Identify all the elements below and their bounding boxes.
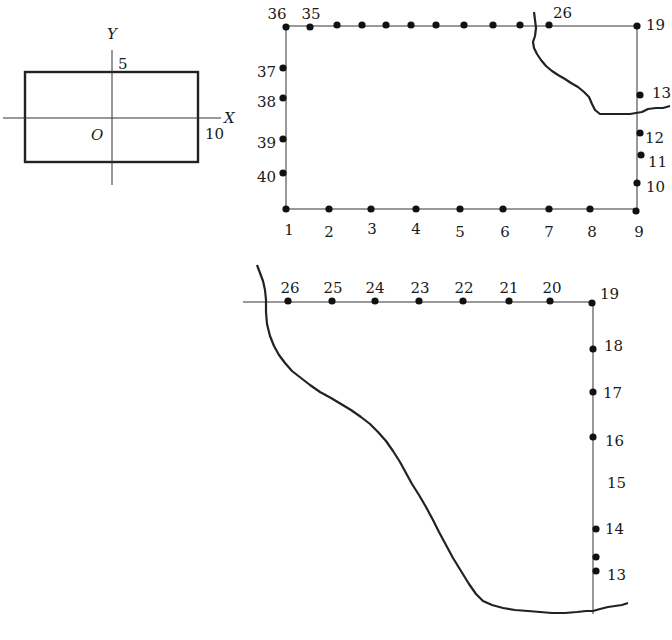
point-label-top-2: 2 (324, 223, 334, 241)
top-points: 123456789101112131926353637383940 (257, 4, 671, 241)
point-label-bottom-17: 17 (603, 384, 622, 402)
point-label-top-26: 26 (553, 4, 572, 22)
top-diagram: 123456789101112131926353637383940 (257, 4, 671, 241)
survey-point-bottom-14 (592, 525, 599, 532)
survey-point-top-36 (282, 23, 289, 30)
point-label-top-1: 1 (284, 221, 294, 239)
survey-point-bottom-26 (284, 297, 291, 304)
bottom-diagram: 1314151617181920212223242526 (243, 265, 628, 614)
point-label-top-36: 36 (267, 5, 286, 23)
point-label-top-12: 12 (645, 129, 664, 147)
point-label-top-6: 6 (500, 223, 510, 241)
survey-point-top-37 (279, 64, 286, 71)
survey-point-bottom-17 (589, 388, 596, 395)
point-label-bottom-25: 25 (323, 279, 342, 297)
point-label-bottom-16: 16 (605, 432, 624, 450)
survey-point-top-33 (358, 21, 365, 28)
survey-point-top-38 (279, 94, 286, 101)
survey-point-bottom-16 (589, 433, 596, 440)
survey-point-top-3 (367, 205, 374, 212)
point-label-top-35: 35 (301, 5, 320, 23)
point-label-top-11: 11 (648, 153, 667, 171)
survey-point-bottom-24 (371, 297, 378, 304)
point-label-bottom-15: 15 (607, 474, 626, 492)
survey-point-bottom-13 (592, 567, 599, 574)
survey-point-top-12 (636, 129, 643, 136)
point-label-top-39: 39 (257, 134, 276, 152)
point-label-top-13: 13 (652, 84, 671, 102)
survey-point-top-30 (432, 21, 439, 28)
point-label-top-9: 9 (634, 223, 644, 241)
survey-point-top-28 (489, 21, 496, 28)
survey-point-bottom-23 (415, 297, 422, 304)
survey-point-top-13 (636, 91, 643, 98)
survey-point-top-7 (545, 205, 552, 212)
point-label-top-3: 3 (367, 220, 377, 238)
survey-point-top-2 (325, 205, 332, 212)
point-label-top-4: 4 (411, 220, 421, 238)
survey-point-bottom-18 (589, 345, 596, 352)
point-label-top-10: 10 (646, 178, 665, 196)
survey-point-bottom-19 (588, 299, 595, 306)
survey-point-top-6 (499, 205, 506, 212)
survey-point-top-4 (412, 205, 419, 212)
survey-point-top-34 (333, 21, 340, 28)
point-label-bottom-13: 13 (607, 566, 626, 584)
survey-point-top-5 (456, 205, 463, 212)
survey-point-top-31 (407, 21, 414, 28)
point-label-top-38: 38 (257, 93, 276, 111)
survey-point-top-9 (632, 207, 639, 214)
point-label-bottom-19: 19 (600, 285, 619, 303)
survey-point-bottom-25 (328, 297, 335, 304)
point-label-bottom-22: 22 (454, 279, 473, 297)
x-axis-label: X (223, 109, 236, 127)
survey-diagram-canvas: X Y O 5 10 12345678910111213192635363738… (0, 0, 672, 640)
survey-point-top-29 (460, 21, 467, 28)
point-label-bottom-20: 20 (542, 279, 561, 297)
origin-label: O (91, 126, 103, 144)
survey-point-top-39 (279, 135, 286, 142)
survey-point-bottom-21 (505, 297, 512, 304)
survey-point-bottom-20 (546, 297, 553, 304)
point-label-bottom-24: 24 (365, 279, 384, 297)
point-label-bottom-21: 21 (499, 279, 518, 297)
survey-point-top-10 (633, 179, 640, 186)
y-axis-label: Y (107, 25, 119, 43)
point-label-bottom-26: 26 (280, 279, 299, 297)
axes-diagram: X Y O 5 10 (3, 25, 236, 185)
survey-point-bottom-22 (459, 297, 466, 304)
point-label-top-7: 7 (544, 223, 554, 241)
point-label-top-5: 5 (455, 223, 465, 241)
point-label-top-19: 19 (646, 16, 665, 34)
point-label-bottom-23: 23 (410, 279, 429, 297)
survey-point-top-19 (633, 22, 640, 29)
survey-point-top-32 (382, 21, 389, 28)
survey-point-top-11 (637, 151, 644, 158)
point-label-bottom-18: 18 (604, 337, 623, 355)
survey-point-top-26 (545, 21, 552, 28)
bottom-points: 1314151617181920212223242526 (280, 279, 626, 584)
survey-point-top-40 (279, 169, 286, 176)
survey-point-top-1 (282, 205, 289, 212)
point-label-bottom-14: 14 (605, 520, 624, 538)
point-label-top-37: 37 (257, 63, 276, 81)
x-tick-label: 10 (205, 125, 224, 143)
point-label-top-40: 40 (257, 168, 276, 186)
y-tick-label: 5 (118, 55, 128, 73)
survey-point-top-35 (306, 23, 313, 30)
survey-point-top-27 (516, 21, 523, 28)
boundary-curve-detail (257, 265, 628, 613)
survey-point-top-8 (586, 205, 593, 212)
point-label-top-8: 8 (587, 223, 597, 241)
survey-point-bottom-13b (592, 553, 599, 560)
